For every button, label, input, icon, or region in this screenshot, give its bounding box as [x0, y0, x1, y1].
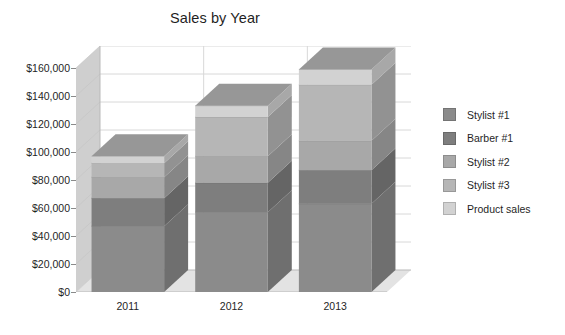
y-axis-tick-label: $80,000 — [32, 174, 70, 186]
legend-swatch-icon — [443, 132, 456, 145]
y-axis-tick-label: $100,000 — [26, 146, 70, 158]
y-axis-tick-mark — [71, 68, 76, 69]
y-axis-tick-mark — [71, 152, 76, 153]
legend-item-label: Stylist #3 — [467, 179, 510, 191]
legend-item[interactable]: Stylist #2 — [443, 150, 531, 174]
y-axis-tick-label: $20,000 — [32, 258, 70, 270]
y-axis-tick-label: $60,000 — [32, 202, 70, 214]
legend-item[interactable]: Product sales — [443, 197, 531, 221]
bar-column-2013 — [299, 47, 396, 292]
chart-container: Sales by Year $0$20,000$40,000$60,000$80… — [0, 0, 565, 335]
y-axis-tick-mark — [71, 292, 76, 293]
y-axis-tick-label: $160,000 — [26, 62, 70, 74]
x-axis-tick-label: 2013 — [323, 300, 346, 312]
x-axis-tick-label: 2012 — [220, 300, 243, 312]
chart-plot-svg — [76, 46, 411, 292]
chart-legend: Stylist #1Barber #1Stylist #2Stylist #3P… — [443, 103, 531, 221]
y-axis-tick-mark — [71, 96, 76, 97]
y-axis-tick-mark — [71, 236, 76, 237]
y-axis-tick-label: $140,000 — [26, 90, 70, 102]
legend-item-label: Stylist #1 — [467, 109, 510, 121]
legend-swatch-icon — [443, 179, 456, 192]
y-axis-tick-mark — [71, 124, 76, 125]
y-axis-tick-mark — [71, 208, 76, 209]
legend-item[interactable]: Barber #1 — [443, 127, 531, 151]
legend-item-label: Barber #1 — [467, 132, 513, 144]
y-axis-tick-mark — [71, 264, 76, 265]
bar-column-2012 — [195, 84, 292, 292]
plot-area — [76, 46, 411, 292]
legend-item[interactable]: Stylist #3 — [443, 174, 531, 198]
legend-swatch-icon — [443, 108, 456, 121]
legend-item-label: Stylist #2 — [467, 156, 510, 168]
legend-item[interactable]: Stylist #1 — [443, 103, 531, 127]
legend-swatch-icon — [443, 155, 456, 168]
x-axis-tick-label: 2011 — [117, 300, 140, 312]
y-axis-tick-label: $40,000 — [32, 230, 70, 242]
y-axis-tick-mark — [71, 180, 76, 181]
y-axis: $0$20,000$40,000$60,000$80,000$100,000$1… — [0, 0, 70, 335]
y-axis-tick-label: $0 — [58, 286, 70, 298]
bar-column-2011 — [92, 134, 189, 292]
y-axis-tick-label: $120,000 — [26, 118, 70, 130]
legend-swatch-icon — [443, 202, 456, 215]
legend-item-label: Product sales — [467, 203, 531, 215]
